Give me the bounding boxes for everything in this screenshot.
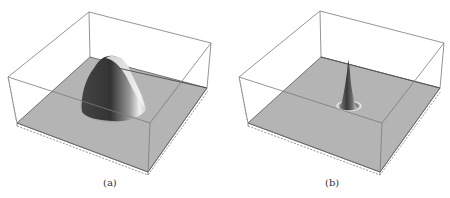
panel-a: (a) xyxy=(0,0,225,198)
panel-label-b: (b) xyxy=(325,177,339,188)
surface-plot-broad xyxy=(0,0,225,198)
surface-plot-narrow xyxy=(231,0,450,198)
panel-label-a: (a) xyxy=(103,177,117,188)
floor-plane xyxy=(248,57,440,172)
panel-b: (b) xyxy=(231,0,450,198)
